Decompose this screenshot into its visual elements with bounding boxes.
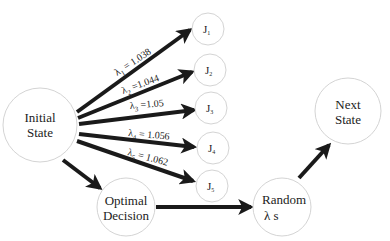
edge-random-next (299, 145, 329, 178)
diagram-canvas: λ1 = 1.038 λ2 =1.044 λ3 =1.05 λ4 = 1.056… (0, 0, 390, 241)
node-optimal-line2: Decision (103, 208, 150, 223)
node-j2: J2 (194, 54, 226, 86)
edge-initial-optimal (63, 160, 100, 188)
node-initial-line1: Initial (24, 110, 55, 125)
node-next-line2: State (335, 112, 361, 127)
node-optimal-decision: Optimal Decision (97, 178, 155, 236)
node-j3: J3 (195, 92, 227, 124)
node-j4: J4 (197, 132, 229, 164)
node-optimal-line1: Optimal (105, 193, 148, 208)
node-initial-state: Initial State (3, 88, 77, 162)
node-random-line2: λ s (264, 208, 279, 223)
node-random: Random λ s (253, 178, 311, 236)
node-next-line1: Next (335, 97, 361, 112)
node-next-state: Next State (315, 78, 381, 144)
node-random-line1: Random (262, 192, 306, 207)
node-j1: J1 (192, 13, 224, 45)
edge-label-3: λ3 =1.05 (129, 97, 164, 114)
node-j5: J5 (196, 170, 228, 202)
node-initial-line2: State (27, 125, 53, 140)
edge-initial-j5 (77, 141, 193, 181)
